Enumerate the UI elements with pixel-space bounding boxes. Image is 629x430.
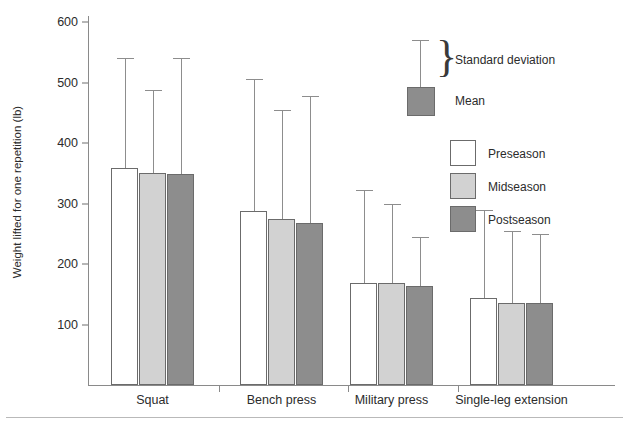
y-tick-label: 200 — [32, 257, 78, 271]
y-tick-mark — [82, 22, 88, 23]
category-label: Single-leg extension — [455, 393, 568, 407]
error-bar-cap — [476, 210, 493, 211]
category-label: Squat — [136, 393, 169, 407]
error-bar-cap — [412, 237, 429, 238]
error-bar-stem — [254, 79, 255, 210]
error-bar-stem — [420, 237, 421, 286]
bar — [470, 298, 497, 385]
bar — [167, 174, 194, 385]
error-bar-cap — [246, 79, 263, 80]
error-bar-stem — [540, 234, 541, 304]
error-bar-cap — [274, 110, 291, 111]
error-bar-cap — [302, 96, 319, 97]
y-tick-mark — [82, 324, 88, 325]
brace-icon: } — [436, 35, 457, 79]
x-axis-line — [88, 385, 615, 386]
legend-swatch-preseason — [450, 140, 476, 166]
bar — [378, 283, 405, 385]
legend-label-postseason: Postseason — [488, 213, 551, 227]
bar — [498, 303, 525, 385]
legend-swatch-midseason — [450, 173, 476, 199]
chart-figure: Weight lifted for one repetition (lb) 10… — [0, 0, 629, 430]
error-bar-cap — [145, 90, 162, 91]
error-bar-cap — [117, 58, 134, 59]
y-tick-mark — [82, 264, 88, 265]
bar — [406, 286, 433, 385]
error-bar-cap — [173, 58, 190, 59]
error-bar-stem — [392, 204, 393, 284]
y-tick-mark — [82, 203, 88, 204]
error-bar-cap — [532, 234, 549, 235]
y-tick-label: 400 — [32, 136, 78, 150]
y-tick-label: 100 — [32, 318, 78, 332]
y-tick-label: 500 — [32, 76, 78, 90]
category-label: Military press — [355, 393, 429, 407]
legend-sd-label: Standard deviation — [455, 53, 555, 67]
y-tick-label: 600 — [32, 15, 78, 29]
bar — [139, 173, 166, 385]
y-tick-label: 300 — [32, 197, 78, 211]
legend-label-midseason: Midseason — [488, 180, 546, 194]
x-tick-mark — [348, 385, 349, 392]
y-tick-mark — [82, 143, 88, 144]
legend-swatch-postseason — [450, 206, 476, 232]
x-tick-mark — [458, 385, 459, 392]
footer-rule — [6, 417, 623, 418]
error-bar-stem — [282, 110, 283, 219]
bar — [240, 211, 267, 385]
legend-error-stem — [420, 40, 421, 87]
bar — [526, 303, 553, 385]
legend-error-cap — [412, 40, 429, 41]
bar — [111, 168, 138, 385]
bar — [350, 283, 377, 385]
error-bar-stem — [484, 210, 485, 298]
x-tick-mark — [219, 385, 220, 392]
error-bar-stem — [364, 190, 365, 284]
error-bar-stem — [512, 231, 513, 303]
bar — [296, 223, 323, 385]
error-bar-cap — [504, 231, 521, 232]
error-bar-stem — [125, 58, 126, 168]
error-bar-stem — [153, 90, 154, 173]
error-bar-stem — [181, 58, 182, 174]
error-bar-stem — [310, 96, 311, 223]
category-label: Bench press — [247, 393, 316, 407]
y-axis-title: Weight lifted for one repetition (lb) — [6, 0, 28, 384]
y-tick-mark — [82, 82, 88, 83]
legend-mean-swatch — [407, 87, 435, 116]
error-bar-cap — [356, 190, 373, 191]
legend-label-preseason: Preseason — [488, 147, 545, 161]
y-axis-line — [88, 16, 89, 385]
legend-mean-label: Mean — [455, 94, 485, 108]
error-bar-cap — [384, 204, 401, 205]
bar — [268, 219, 295, 385]
